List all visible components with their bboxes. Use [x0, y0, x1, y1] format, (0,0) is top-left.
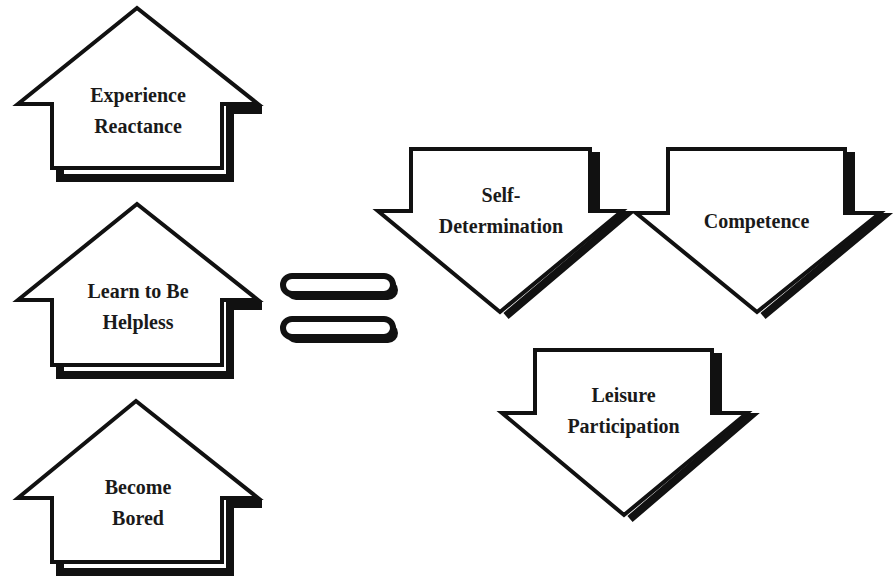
- label-competence: Competence: [668, 206, 845, 237]
- equals-icon: [283, 276, 398, 343]
- label-experience-reactance: Experience Reactance: [52, 80, 224, 142]
- label-self-determination: Self- Determination: [411, 180, 591, 242]
- label-learn-helpless: Learn to Be Helpless: [52, 276, 224, 338]
- label-leisure-participation: Leisure Participation: [535, 380, 712, 442]
- label-become-bored: Become Bored: [52, 472, 224, 534]
